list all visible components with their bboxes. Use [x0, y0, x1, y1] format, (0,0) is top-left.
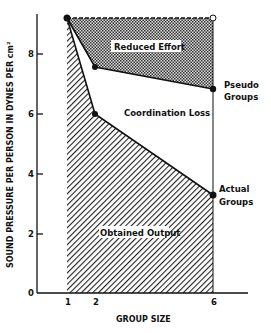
y-tick-2: 2: [28, 229, 34, 239]
y-tick-4: 4: [28, 169, 34, 179]
data-point: [64, 15, 71, 22]
obtained-output-label: Obtained Output: [100, 228, 180, 238]
coordination-loss-label: Coordination Loss: [124, 108, 210, 118]
x-tick-1: 1: [65, 297, 71, 307]
x-tick-6: 6: [211, 297, 217, 307]
reduced-effort-label: Reduced Effort: [114, 42, 185, 52]
data-point-open: [210, 15, 216, 21]
data-point: [210, 86, 216, 92]
data-point: [210, 192, 217, 199]
y-tick-0: 0: [28, 288, 34, 298]
reduced-effort-region: [67, 18, 213, 89]
y-axis-title: SOUND PRESSURE PER PERSON IN DYNES PER c…: [6, 41, 15, 268]
actual-groups-label-2: Groups: [219, 197, 253, 207]
y-tick-6: 6: [28, 109, 34, 119]
y-tick-8: 8: [28, 49, 34, 59]
data-point: [92, 64, 98, 70]
x-tick-2: 2: [93, 297, 99, 307]
x-axis-title: GROUP SIZE: [116, 315, 171, 324]
actual-groups-label-1: Actual: [219, 184, 249, 194]
data-point: [92, 111, 98, 117]
pseudo-groups-label-1: Pseudo: [224, 80, 259, 90]
pseudo-groups-label-2: Groups: [224, 92, 258, 102]
chart: 8 6 4 2 0 1 2 6 Reduced Effort Coordinat…: [0, 0, 271, 333]
